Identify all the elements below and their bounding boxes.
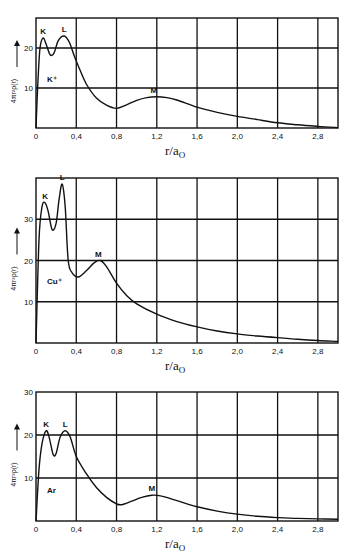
x-axis-label: r/aO xyxy=(165,536,186,553)
x-tick-label: 0 xyxy=(34,525,39,534)
peak-label-l: L xyxy=(63,420,68,429)
y-axis-label-group: 4πr²ρ(r) xyxy=(10,424,20,487)
x-tick-label: 2,8 xyxy=(312,525,324,534)
plot-frame xyxy=(36,392,338,521)
y-tick-labels: 102030 xyxy=(24,388,33,483)
density-curve xyxy=(36,430,338,521)
x-tick-label: 0,8 xyxy=(111,525,123,534)
grid xyxy=(36,392,338,521)
peak-label-k: K xyxy=(43,420,49,429)
peak-label-m: M xyxy=(148,484,155,493)
y-tick-label: 30 xyxy=(24,388,33,397)
x-tick-label: 1,2 xyxy=(151,525,163,534)
x-tick-label: 1,6 xyxy=(192,525,204,534)
chart-panel-ar-ion: 00,40,81,21,62,02,42,8102030r/aO4πr²ρ(r)… xyxy=(0,0,356,555)
x-tick-label: 2,0 xyxy=(232,525,244,534)
x-tick-label: 2,4 xyxy=(272,525,284,534)
y-tick-label: 10 xyxy=(24,474,33,483)
peak-labels: KLM xyxy=(43,420,155,494)
x-tick-label: 0,4 xyxy=(71,525,83,534)
chart-ar-ion: 00,40,81,21,62,02,42,8102030r/aO4πr²ρ(r)… xyxy=(0,0,356,555)
y-axis-label: 4πr²ρ(r) xyxy=(10,462,18,486)
y-tick-label: 20 xyxy=(24,431,33,440)
ion-label: Ar xyxy=(47,486,56,495)
x-tick-labels: 00,40,81,21,62,02,42,8 xyxy=(34,525,324,534)
